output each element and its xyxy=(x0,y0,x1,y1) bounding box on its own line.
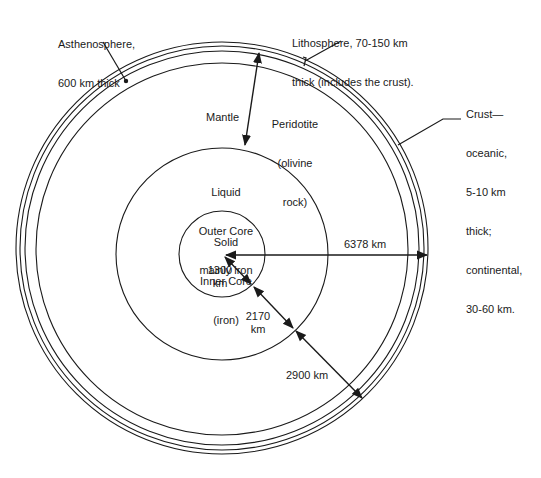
outer-core-thickness-label: 2170 km xyxy=(236,310,280,336)
mantle-thickness-arrow xyxy=(296,331,362,398)
mantle-arrow xyxy=(245,53,259,145)
outer-core-label-line1: Liquid xyxy=(186,186,266,199)
peridotite-label-line1: Peridotite xyxy=(264,118,326,131)
peridotite-label-line3: rock) xyxy=(264,196,326,209)
crust-label-line3: 5-10 km xyxy=(466,186,522,199)
lithosphere-label: Lithosphere, 70-150 km thick (includes t… xyxy=(292,11,414,102)
crust-leader xyxy=(398,119,461,145)
asthenosphere-label-line2: 600 km thick xyxy=(58,77,135,90)
asthenosphere-label: Asthenosphere, 600 km thick xyxy=(58,12,135,103)
crust-label-line2: oceanic, xyxy=(466,147,522,160)
crust-label-line1: Crust— xyxy=(466,108,522,121)
mantle-thickness-label: 2900 km xyxy=(286,369,328,382)
peridotite-label-line2: (olivine xyxy=(264,157,326,170)
asthenosphere-label-line1: Asthenosphere, xyxy=(58,38,135,51)
earth-radius-label: 6378 km xyxy=(344,238,386,251)
inner-core-radius-label: 1300 km xyxy=(200,264,240,290)
crust-label: Crust— oceanic, 5-10 km thick; continent… xyxy=(466,82,522,329)
crust-label-line6: 30-60 km. xyxy=(466,303,522,316)
mantle-label-line1: Mantle xyxy=(206,111,239,124)
peridotite-label: Peridotite (olivine rock) xyxy=(264,92,326,222)
lithosphere-label-line1: Lithosphere, 70-150 km xyxy=(292,37,414,50)
crust-label-line4: thick; xyxy=(466,225,522,238)
lithosphere-label-line2: thick (includes the crust). xyxy=(292,76,414,89)
inner-core-label-line1: Solid xyxy=(186,236,266,249)
crust-label-line5: continental, xyxy=(466,264,522,277)
mantle-label: Mantle xyxy=(206,85,239,137)
